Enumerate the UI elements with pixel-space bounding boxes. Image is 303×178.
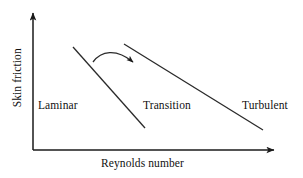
skin-friction-diagram: Skin friction Reynolds number Laminar Tr…	[0, 0, 303, 178]
laminar-curve	[73, 47, 145, 128]
turbulent-curve	[124, 44, 263, 130]
region-label-transition: Transition	[143, 100, 191, 112]
transition-arrow	[93, 53, 133, 62]
region-label-turbulent: Turbulent	[242, 100, 288, 112]
y-axis-label: Skin friction	[12, 42, 24, 114]
diagram-canvas	[0, 0, 303, 178]
x-axis-label: Reynolds number	[101, 158, 184, 170]
region-label-laminar: Laminar	[38, 100, 78, 112]
